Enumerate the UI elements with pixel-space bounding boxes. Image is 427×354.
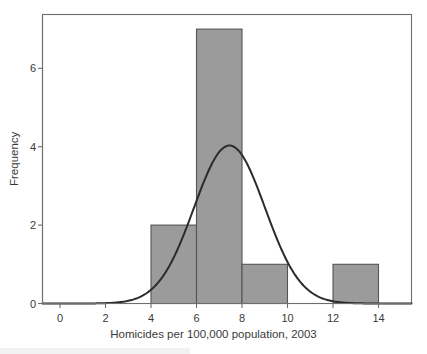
y-tick-label: 4	[20, 141, 36, 152]
x-tick-label: 4	[148, 313, 154, 324]
plot-area	[0, 0, 427, 354]
y-axis-title: Frequency	[8, 132, 20, 186]
histogram-bar	[242, 264, 288, 303]
x-tick-label: 6	[193, 313, 199, 324]
histogram-bar	[333, 264, 379, 303]
histogram-bar	[151, 225, 197, 303]
x-tick-label: 0	[57, 313, 63, 324]
x-tick-label: 14	[372, 313, 384, 324]
y-tick-label: 6	[20, 63, 36, 74]
y-tick-label: 0	[20, 298, 36, 309]
x-tick-label: 10	[281, 313, 293, 324]
x-tick-label: 2	[102, 313, 108, 324]
histogram-figure: 02468101214 0246 Homicides per 100,000 p…	[0, 0, 427, 354]
x-tick-label: 8	[239, 313, 245, 324]
x-tick-label: 12	[327, 313, 339, 324]
x-axis-title: Homicides per 100,000 population, 2003	[0, 328, 427, 340]
histogram-bar	[197, 29, 243, 303]
y-tick-label: 2	[20, 220, 36, 231]
page-scan-artifact	[0, 348, 190, 354]
